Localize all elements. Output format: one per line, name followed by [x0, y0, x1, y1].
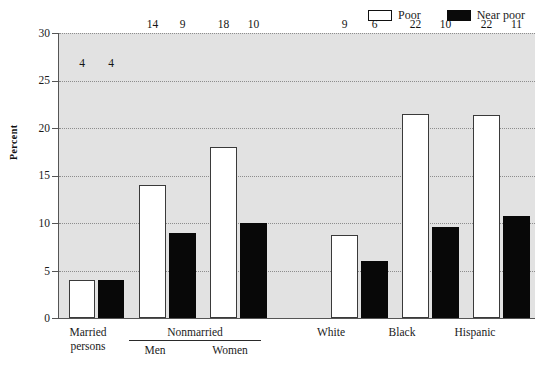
- bar-hispanic-near-poor: [503, 216, 530, 318]
- x-label-hispanic: Hispanic: [436, 325, 514, 339]
- x-label-married-line2: persons: [56, 339, 120, 353]
- y-tick-label-25: 25: [12, 75, 50, 87]
- bar-white-near-poor: [361, 261, 388, 318]
- y-tick-label-15: 15: [12, 170, 50, 182]
- gridline-10: [59, 223, 535, 224]
- x-label-married-persons: Married persons: [56, 325, 120, 354]
- bar-married-near-poor: [98, 280, 124, 318]
- bar-value-married-poor: 4: [66, 58, 98, 70]
- y-tick-label-20: 20: [12, 123, 50, 135]
- bar-value-white-near-poor: 6: [358, 19, 391, 31]
- bar-value-hispanic-poor: 22: [470, 19, 503, 31]
- x-label-black: Black: [371, 325, 433, 339]
- y-tick-label-30: 30: [12, 28, 50, 40]
- bar-married-poor: [69, 280, 95, 318]
- y-tick-label-5: 5: [12, 266, 50, 278]
- bar-value-women-poor: 18: [207, 19, 240, 31]
- y-tick-label-0: 0: [12, 313, 50, 325]
- plot-area: 4 4 14 9 18 10 9 6 22 10 22 11: [58, 33, 535, 319]
- bar-black-near-poor: [432, 227, 459, 318]
- y-tick-label-10: 10: [12, 218, 50, 230]
- x-label-white: White: [300, 325, 362, 339]
- gridline-20: [59, 128, 535, 129]
- x-label-men: Men: [128, 343, 182, 357]
- bar-women-poor: [210, 147, 237, 318]
- gridline-15: [59, 176, 535, 177]
- nonmarried-bracket-rule: [129, 340, 261, 341]
- bar-chart: Poor Near poor Percent 30 25 20 15 10 5 …: [0, 0, 553, 367]
- bar-value-hispanic-near-poor: 11: [500, 19, 533, 31]
- bar-hispanic-poor: [473, 115, 500, 318]
- bar-white-poor: [331, 235, 358, 318]
- bar-black-poor: [402, 114, 429, 318]
- bar-value-black-poor: 22: [399, 19, 432, 31]
- bar-value-men-poor: 14: [136, 19, 169, 31]
- bar-value-married-near-poor: 4: [95, 58, 127, 70]
- gridline-5: [59, 271, 535, 272]
- bar-men-poor: [139, 185, 166, 318]
- bar-value-black-near-poor: 10: [429, 19, 462, 31]
- bar-value-men-near-poor: 9: [166, 19, 199, 31]
- bar-women-near-poor: [240, 223, 267, 318]
- gridline-30: [59, 33, 535, 34]
- x-label-women: Women: [198, 343, 262, 357]
- bar-men-near-poor: [169, 233, 196, 318]
- gridline-25: [59, 81, 535, 82]
- bar-value-women-near-poor: 10: [237, 19, 270, 31]
- bar-value-white-poor: 9: [328, 19, 361, 31]
- x-label-nonmarried: Nonmarried: [145, 325, 245, 339]
- x-label-married-line1: Married: [56, 325, 120, 339]
